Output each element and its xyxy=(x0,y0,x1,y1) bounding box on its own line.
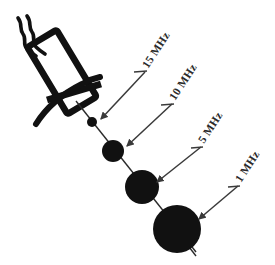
ultrasound-frequency-figure: 15 MHz 10 MHz 5 MHz 1 MHz xyxy=(0,0,275,265)
leader-tick-5mhz xyxy=(191,147,203,148)
focal-spot-15mhz xyxy=(87,117,97,127)
figure-canvas: 15 MHz 10 MHz 5 MHz 1 MHz xyxy=(0,0,275,265)
focal-spot-10mhz xyxy=(102,140,124,162)
leader-tick-1mhz xyxy=(228,186,240,187)
focal-spot-5mhz xyxy=(125,170,159,204)
focal-spot-1mhz xyxy=(153,205,201,253)
leader-tick-10mhz xyxy=(161,104,174,105)
leader-tick-15mhz xyxy=(134,71,147,72)
